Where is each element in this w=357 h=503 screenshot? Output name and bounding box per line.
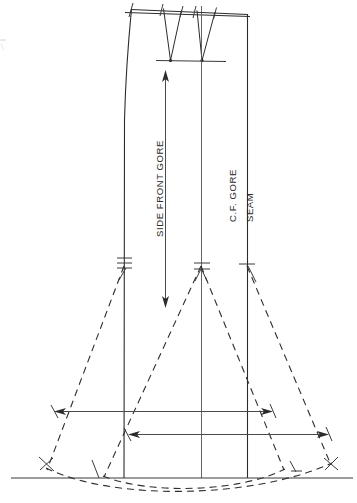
notch-mid-stroke-a-icon <box>195 269 201 281</box>
notch-right-stroke-icon <box>248 266 256 282</box>
dart-right-leg-b <box>202 12 215 61</box>
side-seam-curved-edge <box>124 9 132 478</box>
hipline <box>156 61 226 62</box>
hem-curves-group <box>46 463 332 491</box>
hipline-group <box>156 61 226 62</box>
dart-left-leg-b <box>171 10 182 61</box>
side-seam-edge-group <box>124 9 132 478</box>
flare-line-3 <box>201 266 284 470</box>
flare-line-1 <box>47 266 124 470</box>
hem-tick-mid-left-icon <box>92 460 99 478</box>
sweep-dimension-lower-group <box>124 427 332 441</box>
hem-curve-inner <box>103 469 285 488</box>
pattern-svg: SIDE FRONT GORE C.F. GORE SEAM <box>0 0 357 503</box>
flare-line-4 <box>247 266 331 465</box>
flare-lines-group <box>47 266 331 477</box>
hem-tick-mid-right-a-icon <box>290 461 296 472</box>
notch-marks-group <box>117 258 256 282</box>
hem-ticks-group <box>39 457 338 478</box>
labels-group: SIDE FRONT GORE C.F. GORE SEAM <box>154 140 255 237</box>
left-edge-faint-mark-2 <box>1 44 4 50</box>
label-side-front-gore: SIDE FRONT GORE <box>154 140 165 237</box>
sweep-dimension-upper-group <box>51 404 276 418</box>
stray-marks-group <box>0 40 6 50</box>
label-cf-gore: C.F. GORE <box>227 169 238 222</box>
waistline-group <box>125 3 250 17</box>
waistline-top-secondary <box>125 13 250 17</box>
pattern-drawing-canvas: SIDE FRONT GORE C.F. GORE SEAM <box>0 0 357 503</box>
hem-curve-outer <box>46 463 332 491</box>
dart-left-leg-a <box>164 9 171 61</box>
label-seam: SEAM <box>244 193 255 222</box>
flare-line-2 <box>104 266 201 477</box>
